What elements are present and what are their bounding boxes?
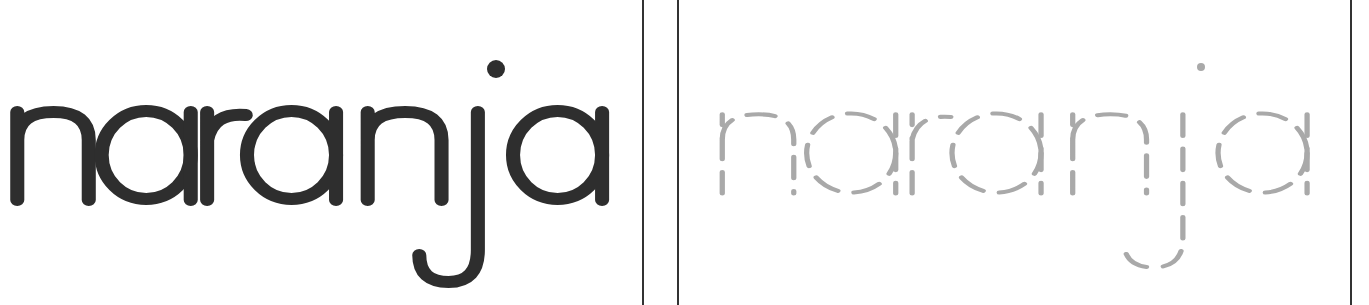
worksheet: naranja bbox=[0, 0, 1369, 305]
j-dot-solid bbox=[487, 60, 505, 78]
traceable-word bbox=[722, 113, 1307, 267]
solid-word bbox=[17, 111, 602, 282]
j-dot-dashed bbox=[1197, 63, 1205, 71]
